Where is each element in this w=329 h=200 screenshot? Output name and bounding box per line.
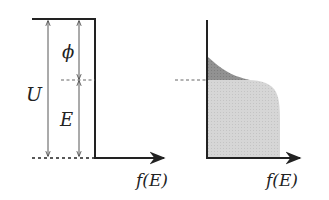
occupied-states-fill <box>208 80 280 157</box>
left-x-axis-label: f(E) <box>134 170 168 190</box>
diagram-canvas: U ϕ E f(E) f(E) <box>0 0 329 200</box>
U-label: U <box>26 83 43 105</box>
right-panel-distribution: f(E) <box>175 20 300 190</box>
left-panel-energy-well: U ϕ E f(E) <box>26 18 168 190</box>
phi-label: ϕ <box>62 41 74 62</box>
right-x-axis-label: f(E) <box>264 170 298 190</box>
thermal-tail-fill <box>208 57 250 80</box>
E-label: E <box>59 109 73 130</box>
